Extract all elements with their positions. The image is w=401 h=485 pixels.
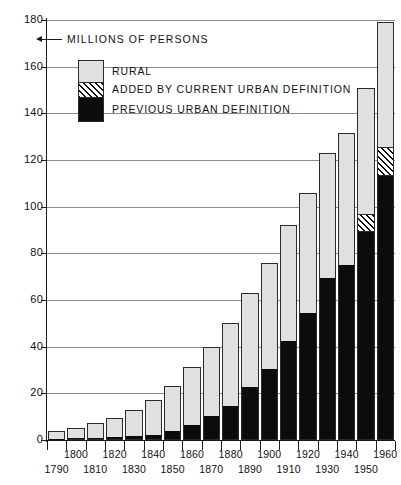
segment-previous-urban-1920 — [300, 313, 315, 439]
bar-1810 — [87, 423, 104, 440]
segment-previous-urban-1960 — [378, 176, 393, 439]
segment-previous-urban-1930 — [320, 278, 335, 439]
y-tick-label-120: 120 — [3, 154, 43, 165]
x-tick-label-1950: 1950 — [354, 463, 378, 475]
bar-1890 — [241, 293, 258, 440]
y-tick-label-60: 60 — [3, 294, 43, 305]
segment-previous-urban-1880 — [223, 406, 238, 439]
legend-swatch-previous — [79, 98, 103, 121]
segment-previous-urban-1810 — [88, 438, 103, 439]
segment-previous-urban-1830 — [126, 436, 141, 439]
x-tick-label-1920: 1920 — [296, 448, 320, 460]
segment-added-urban-1950 — [358, 214, 373, 232]
bar-column-1960 — [376, 20, 395, 440]
y-tick-label-140: 140 — [3, 107, 43, 118]
bar-column-1790 — [47, 20, 66, 440]
x-tick-label-1900: 1900 — [257, 448, 281, 460]
x-tick-label-1790: 1790 — [45, 463, 69, 475]
x-tick-label-1820: 1820 — [103, 448, 127, 460]
bar-1870 — [203, 347, 220, 440]
x-tick-label-1960: 1960 — [373, 448, 397, 460]
bar-1910 — [280, 225, 297, 440]
segment-previous-urban-1870 — [204, 416, 219, 439]
x-tick-label-1940: 1940 — [335, 448, 359, 460]
left-arrow-icon — [36, 36, 62, 43]
bar-1850 — [164, 386, 181, 440]
segment-previous-urban-1850 — [165, 431, 180, 439]
segment-previous-urban-1900 — [262, 369, 277, 439]
x-tick-label-1850: 1850 — [161, 463, 185, 475]
units-note: MILLIONS OF PERSONS — [36, 33, 209, 45]
legend-label-added: ADDED BY CURRENT URBAN DEFINITION — [112, 84, 351, 95]
segment-previous-urban-1940 — [339, 265, 354, 439]
y-tick-label-0: 0 — [3, 434, 43, 445]
bar-column-1950 — [356, 20, 375, 440]
x-tick-label-1910: 1910 — [277, 463, 301, 475]
legend-swatch-added — [79, 82, 103, 98]
x-tick-label-1870: 1870 — [199, 463, 223, 475]
segment-previous-urban-1800 — [68, 438, 83, 439]
legend-label-rural: RURAL — [112, 66, 152, 77]
segment-previous-urban-1910 — [281, 341, 296, 439]
x-tick-label-1810: 1810 — [83, 463, 107, 475]
y-tick-label-100: 100 — [3, 201, 43, 212]
legend-swatch-rural — [79, 61, 103, 82]
bar-1920 — [299, 193, 316, 440]
segment-previous-urban-1820 — [107, 437, 122, 439]
segment-previous-urban-1860 — [184, 425, 199, 439]
segment-previous-urban-1890 — [242, 387, 257, 439]
bar-1960 — [377, 22, 394, 440]
bar-1900 — [261, 263, 278, 440]
bar-1860 — [183, 367, 200, 440]
x-tick-label-1930: 1930 — [315, 463, 339, 475]
legend-label-previous: PREVIOUS URBAN DEFINITION — [112, 104, 291, 115]
x-tick-label-1890: 1890 — [238, 463, 262, 475]
population-chart: 020406080100120140160180 179018001810182… — [0, 0, 401, 485]
bar-1830 — [125, 410, 142, 440]
x-tick-label-1860: 1860 — [180, 448, 204, 460]
y-tick-label-160: 160 — [3, 61, 43, 72]
bar-1880 — [222, 323, 239, 440]
y-tick-label-80: 80 — [3, 247, 43, 258]
bar-1930 — [319, 153, 336, 440]
y-tick-label-20: 20 — [3, 387, 43, 398]
legend-swatch-stack — [78, 60, 104, 122]
segment-added-urban-1960 — [378, 147, 393, 177]
bar-1950 — [357, 88, 374, 440]
bar-1790 — [48, 431, 65, 440]
bar-1800 — [67, 428, 84, 440]
x-tick-label-1880: 1880 — [219, 448, 243, 460]
bar-1840 — [145, 400, 162, 440]
x-tick-label-1840: 1840 — [141, 448, 165, 460]
y-tick-label-180: 180 — [3, 14, 43, 25]
segment-previous-urban-1840 — [146, 435, 161, 439]
x-tick-label-1830: 1830 — [122, 463, 146, 475]
bar-1820 — [106, 418, 123, 440]
segment-previous-urban-1950 — [358, 232, 373, 439]
y-tick-label-40: 40 — [3, 341, 43, 352]
y-axis-labels: 020406080100120140160180 — [0, 0, 43, 485]
bar-1940 — [338, 133, 355, 440]
x-tick-label-1800: 1800 — [64, 448, 88, 460]
units-note-label: MILLIONS OF PERSONS — [67, 33, 209, 45]
x-axis-labels: 1790180018101820183018401850186018701880… — [0, 446, 401, 484]
